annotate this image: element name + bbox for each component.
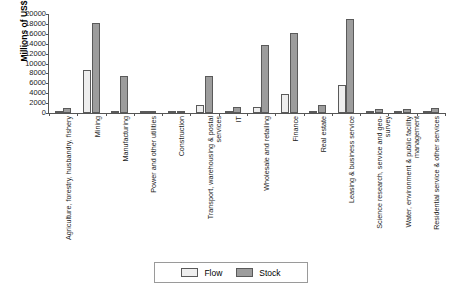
x-tick-label: Residential service & other services xyxy=(433,116,441,244)
bar-group xyxy=(281,14,298,113)
y-tick-mark xyxy=(46,93,49,94)
bar-stock xyxy=(92,23,100,113)
bar-group xyxy=(366,14,383,113)
x-tick-label: Science research, service and geo-survey xyxy=(376,116,393,244)
bar-group xyxy=(394,14,411,113)
legend-label-flow: Flow xyxy=(204,268,222,278)
x-tick-label: Real estate xyxy=(320,116,328,244)
bar-group xyxy=(55,14,72,113)
bar-chart: Millions of US$ 200001800016000140001200… xyxy=(0,0,453,301)
x-tick-label: Water, environment & public facility man… xyxy=(405,116,422,244)
x-tick-label: Manufacturing xyxy=(122,116,130,244)
legend-item-flow: Flow xyxy=(181,268,222,278)
bar-group xyxy=(309,14,326,113)
y-tick-label: 18000 xyxy=(25,20,46,28)
x-tick-label: Mining xyxy=(94,116,102,244)
bar-group xyxy=(83,14,100,113)
bar-stock xyxy=(177,111,185,113)
bar-flow xyxy=(196,105,204,113)
bar-group xyxy=(168,14,185,113)
bar-flow xyxy=(309,111,317,113)
x-tick-label: Finance xyxy=(292,116,300,244)
y-tick-label: 14000 xyxy=(25,40,46,48)
bar-stock xyxy=(346,19,354,113)
bar-flow xyxy=(366,111,374,113)
bar-group xyxy=(338,14,355,113)
x-tick-label: Agriculture, forestry, husbandry, fisher… xyxy=(65,116,73,244)
legend-label-stock: Stock xyxy=(259,268,280,278)
bar-flow xyxy=(83,70,91,113)
legend-swatch-stock xyxy=(236,268,253,277)
bar-flow xyxy=(225,111,233,113)
y-axis-tick-labels: 2000018000160001400012000100008000600040… xyxy=(12,9,46,119)
y-tick-label: 12000 xyxy=(25,50,46,58)
chart-legend: Flow Stock xyxy=(154,262,308,283)
bar-group xyxy=(196,14,213,113)
bar-group xyxy=(111,14,128,113)
bar-stock xyxy=(148,111,156,113)
x-tick-mark xyxy=(445,113,446,116)
bar-flow xyxy=(111,111,119,113)
y-tick-label: 20000 xyxy=(25,10,46,18)
bar-group xyxy=(423,14,440,113)
bar-group xyxy=(253,14,270,113)
bar-flow xyxy=(281,94,289,113)
bar-stock xyxy=(120,76,128,113)
y-tick-mark xyxy=(46,64,49,65)
bar-stock xyxy=(205,76,213,113)
x-tick-label: Wholesale and retailing xyxy=(263,116,271,244)
legend-item-stock: Stock xyxy=(236,268,280,278)
x-tick-label: Power and other utilities xyxy=(150,116,158,244)
bar-stock xyxy=(403,109,411,113)
bar-flow xyxy=(140,111,148,113)
y-tick-label: 4000 xyxy=(29,89,46,97)
x-tick-label: Leasing & business service xyxy=(348,116,356,244)
y-tick-label: 2000 xyxy=(29,99,46,107)
bar-stock xyxy=(318,105,326,113)
y-tick-mark xyxy=(46,24,49,25)
y-tick-label: 8000 xyxy=(29,69,46,77)
bar-stock xyxy=(290,33,298,113)
bar-group xyxy=(140,14,157,113)
bar-flow xyxy=(338,85,346,113)
x-axis-tick-labels: Agriculture, forestry, husbandry, fisher… xyxy=(48,116,444,246)
bar-flow xyxy=(423,111,431,113)
bar-stock xyxy=(431,108,439,113)
bar-flow xyxy=(394,111,402,113)
figure-caption xyxy=(0,293,453,301)
y-tick-label: 6000 xyxy=(29,79,46,87)
y-tick-label: 16000 xyxy=(25,30,46,38)
x-tick-label: Construction xyxy=(178,116,186,244)
bar-flow xyxy=(55,111,63,113)
bar-stock xyxy=(375,109,383,113)
bar-flow xyxy=(253,107,261,113)
y-tick-mark xyxy=(46,83,49,84)
y-tick-mark xyxy=(46,73,49,74)
y-tick-mark xyxy=(46,103,49,104)
y-tick-mark xyxy=(46,54,49,55)
bar-group xyxy=(225,14,242,113)
bar-stock xyxy=(233,107,241,113)
bar-flow xyxy=(168,111,176,113)
legend-swatch-flow xyxy=(181,268,198,277)
y-tick-mark xyxy=(46,44,49,45)
y-tick-mark xyxy=(46,14,49,15)
bar-stock xyxy=(63,108,71,113)
plot-area xyxy=(48,14,445,114)
y-tick-label: 10000 xyxy=(25,60,46,68)
x-tick-label: Transport, warehousing & postal services xyxy=(207,116,224,244)
y-tick-mark xyxy=(46,34,49,35)
bar-stock xyxy=(261,45,269,113)
x-tick-label: IT xyxy=(235,116,243,244)
